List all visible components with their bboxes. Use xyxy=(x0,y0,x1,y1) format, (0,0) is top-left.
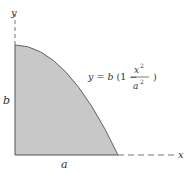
eq-close-paren: ) xyxy=(153,71,157,82)
curve-equation: y = b (1 − x 2 a 2 ) xyxy=(87,62,157,91)
width-label: a xyxy=(61,158,68,171)
x-axis-label: x xyxy=(178,149,184,160)
parabola-area-diagram: y x b a y = b (1 − x 2 a 2 ) xyxy=(0,0,191,173)
y-axis-label: y xyxy=(10,7,17,18)
eq-denominator: a xyxy=(133,81,138,91)
height-label: b xyxy=(3,94,10,107)
eq-denominator-exp: 2 xyxy=(140,78,144,85)
svg-text:y = b (1 −: y = b (1 − xyxy=(87,71,137,82)
eq-numerator: x xyxy=(134,65,139,75)
eq-numerator-exp: 2 xyxy=(140,62,144,69)
shaded-region xyxy=(15,45,118,155)
